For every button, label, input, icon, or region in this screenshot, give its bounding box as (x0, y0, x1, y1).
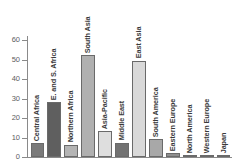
bar (200, 155, 214, 157)
bar-group: Asia-Pacific (97, 8, 114, 157)
bar (115, 143, 129, 157)
y-axis-tick-label: 60 (0, 36, 20, 44)
y-axis-tick (22, 40, 27, 41)
bar (132, 61, 146, 157)
bar-group: East Asia (131, 8, 148, 157)
bar (31, 143, 45, 157)
y-axis-tick-label: 10 (0, 134, 20, 142)
bar-group: Northern Africa (63, 8, 80, 157)
y-axis-line (27, 36, 28, 158)
bar (217, 155, 231, 157)
bar (81, 55, 95, 157)
bar-group: Japan (215, 8, 232, 157)
y-axis-tick-label: 40 (0, 75, 20, 83)
bar-category-label: Central Africa (34, 95, 41, 141)
y-axis-tick (22, 157, 27, 158)
y-axis-tick (22, 99, 27, 100)
y-axis-tick-label: 0 (0, 153, 20, 161)
bar-category-label: South Asia (84, 16, 91, 53)
bar-category-label: East Asia (135, 27, 142, 59)
bar-chart: 0102030405060 Central AfricaE. and S. Af… (0, 0, 245, 166)
bar-group: Western Europe (198, 8, 215, 157)
bar-category-label: North America (186, 104, 193, 153)
bar (47, 102, 61, 157)
y-axis-tick-label: 30 (0, 95, 20, 103)
y-axis-tick (22, 60, 27, 61)
bar-group: E. and S. Africa (46, 8, 63, 157)
bar-group: Eastern Europe (164, 8, 181, 157)
bar-category-label: Western Europe (203, 99, 210, 153)
bar-group: Central Africa (29, 8, 46, 157)
y-axis-tick-label: 20 (0, 114, 20, 122)
y-axis-tick (22, 138, 27, 139)
bar-group: Middle East (114, 8, 131, 157)
bar-category-label: South America (152, 87, 159, 137)
bar (166, 153, 180, 157)
bar-group: South Asia (80, 8, 97, 157)
x-axis-line (27, 157, 232, 158)
bar-category-label: Japan (220, 132, 227, 153)
bar (98, 131, 112, 157)
y-axis-tick-label: 50 (0, 56, 20, 64)
y-axis-tick (22, 79, 27, 80)
bar-group: North America (181, 8, 198, 157)
bar-category-label: Asia-Pacific (101, 89, 108, 129)
bar (149, 139, 163, 157)
y-axis-tick (22, 118, 27, 119)
bar-category-label: E. and S. Africa (50, 48, 57, 100)
bar-category-label: Northern Africa (67, 91, 74, 143)
bars-group: Central AfricaE. and S. AfricaNorthern A… (29, 8, 232, 157)
bar (64, 145, 78, 157)
bar-category-label: Eastern Europe (169, 99, 176, 152)
bar-category-label: Middle East (118, 101, 125, 140)
bar-group: South America (147, 8, 164, 157)
bar (183, 155, 197, 157)
